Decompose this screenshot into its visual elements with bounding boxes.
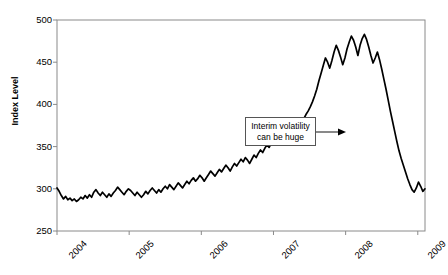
annotation-line-2: can be huge xyxy=(250,132,311,143)
annotation-line-1: Interim volatility xyxy=(250,121,311,132)
y-tick-marks xyxy=(53,20,57,231)
x-tick-marks xyxy=(57,231,418,235)
annotation-callout: Interim volatility can be huge xyxy=(245,117,316,146)
